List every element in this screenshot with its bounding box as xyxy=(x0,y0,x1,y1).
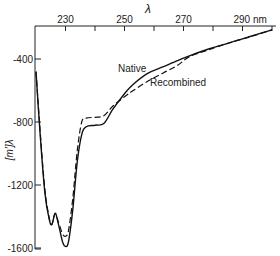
y-tick-label: -1600 xyxy=(7,243,33,254)
x-tick-label: 250 xyxy=(116,14,133,25)
y-tick-label: -1200 xyxy=(7,180,33,191)
y-tick-label: -400 xyxy=(13,54,33,65)
x-axis-title: λ xyxy=(144,2,151,16)
y-axis-title: [m′]λ xyxy=(4,140,15,162)
x-tick-label: 270 xyxy=(175,14,192,25)
cd-spectrum-chart: λ 230250270290 nm -400-800-1200-1600 [m′… xyxy=(0,0,280,256)
x-axis-ticks: 230250270290 nm xyxy=(57,14,272,31)
label-native: Native xyxy=(118,63,147,74)
label-recombined: Recombined xyxy=(150,77,206,88)
y-tick-label: -800 xyxy=(13,117,33,128)
x-tick-label: 290 nm xyxy=(234,14,267,25)
x-tick-label: 230 xyxy=(57,14,74,25)
series-line-recombined xyxy=(36,30,272,236)
